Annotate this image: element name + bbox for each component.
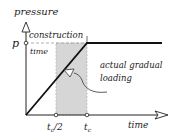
tc-marker	[85, 113, 89, 117]
construction-label: construction	[29, 30, 83, 40]
shaded-region	[56, 43, 87, 115]
tick-tc: tc	[84, 122, 92, 133]
p-marker	[24, 41, 28, 45]
x-axis-label: time	[128, 120, 148, 130]
y-axis-label: pressure	[14, 6, 59, 17]
annotation-label-line1: actual gradual	[100, 60, 163, 70]
tick-tc-half: tc/2	[47, 122, 63, 133]
loading-diagram: pressure p construction time actual grad…	[0, 0, 176, 137]
annotation-label-line2: loading	[100, 73, 133, 83]
tc-half-marker	[54, 113, 58, 117]
construction-time-label: time	[30, 47, 48, 56]
p-label: p	[12, 37, 19, 50]
